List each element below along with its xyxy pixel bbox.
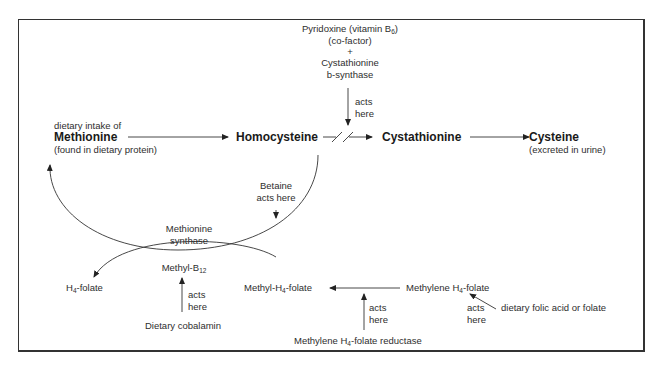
folic-here-label: here — [467, 314, 486, 326]
cystathionine-node: Cystathionine — [382, 130, 461, 144]
h4-folate-node: H4-folate — [66, 282, 103, 294]
pyridoxine-label: Pyridoxine (vitamin B6) — [302, 23, 398, 35]
pyridoxine-acts-label: acts — [355, 96, 372, 108]
plus-sign: + — [347, 46, 353, 58]
synthase-label: synthase — [170, 235, 208, 247]
cobalamin-here-label: here — [188, 301, 207, 313]
methyl-h4-folate-node: Methyl-H4-folate — [244, 282, 312, 294]
cysteine-node: Cysteine — [529, 130, 579, 144]
homocysteine-node: Homocysteine — [236, 130, 318, 144]
cofactor-label: (co-factor) — [328, 35, 371, 47]
cystathionine-enzyme-label: Cystathionine — [321, 57, 379, 69]
dietary-cobalamin-label: Dietary cobalamin — [145, 320, 221, 332]
reductase-here-label: here — [369, 314, 388, 326]
methylene-h4-folate-node: Methylene H4-folate — [406, 282, 489, 294]
pathway-arrows — [0, 0, 658, 369]
betaine-label: Betaine — [260, 180, 292, 192]
methionine-note: (found in dietary protein) — [54, 144, 157, 156]
reductase-acts-label: acts — [369, 302, 386, 314]
betaine-acts-label: acts here — [256, 192, 295, 204]
methionine-node: Methionine — [54, 130, 117, 144]
dietary-folic-acid-label: dietary folic acid or folate — [501, 302, 606, 314]
b-synthase-label: b-synthase — [327, 69, 373, 81]
folic-acts-label: acts — [467, 302, 484, 314]
cobalamin-acts-label: acts — [188, 289, 205, 301]
cysteine-note: (excreted in urine) — [529, 144, 606, 156]
methionine-synthase-label: Methionine — [166, 223, 212, 235]
reductase-label: Methylene H4-folate reductase — [294, 335, 422, 347]
methyl-b12-node: Methyl-B12 — [162, 262, 207, 274]
pyridoxine-here-label: here — [355, 108, 374, 120]
